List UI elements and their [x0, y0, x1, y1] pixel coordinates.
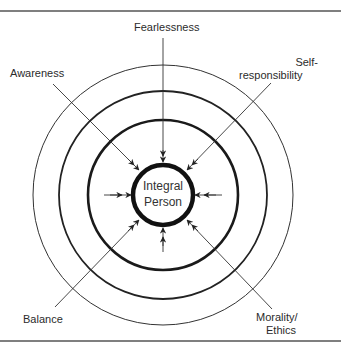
center-label-integral: Integral — [133, 179, 193, 194]
integral-person-diagram: Fearlessness Awareness Self- responsibil… — [0, 0, 341, 352]
label-fearlessness: Fearlessness — [134, 21, 199, 34]
label-morality: Morality/ — [256, 311, 298, 324]
label-self-responsibility: Self- — [258, 56, 318, 69]
center-label-person: Person — [133, 195, 193, 210]
label-awareness: Awareness — [10, 67, 64, 80]
label-balance: Balance — [23, 313, 63, 326]
diagram-canvas — [0, 0, 341, 352]
label-self-responsibility-line2: responsibility — [239, 69, 303, 82]
label-self-responsibility-line1: Self- — [258, 56, 318, 69]
label-ethics: Ethics — [266, 324, 296, 337]
